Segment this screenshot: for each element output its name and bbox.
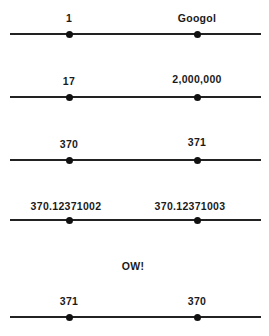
right-label: 370.12371003 <box>155 200 226 212</box>
right-label: Googol <box>178 12 217 24</box>
left-point <box>66 157 73 164</box>
ow-annotation: OW! <box>122 260 144 272</box>
line <box>10 33 261 35</box>
right-point <box>194 31 201 38</box>
right-point <box>194 314 201 321</box>
right-point <box>194 217 201 224</box>
number-line-3: 370 371 <box>0 160 269 161</box>
right-label: 370 <box>188 295 206 307</box>
left-label: 17 <box>63 75 75 87</box>
left-label: 1 <box>66 12 72 24</box>
left-label: 370.12371002 <box>31 200 102 212</box>
left-point <box>66 217 73 224</box>
left-point <box>66 31 73 38</box>
left-label: 370 <box>60 138 78 150</box>
line <box>10 159 261 161</box>
number-line-1: 1 Googol <box>0 34 269 35</box>
line <box>10 96 261 98</box>
number-line-5: 371 370 <box>0 317 269 318</box>
right-point <box>194 94 201 101</box>
number-line-2: 17 2,000,000 <box>0 97 269 98</box>
line <box>10 316 261 318</box>
left-point <box>66 94 73 101</box>
right-label: 2,000,000 <box>172 73 221 85</box>
right-label: 371 <box>188 136 206 148</box>
left-label: 371 <box>60 295 78 307</box>
number-line-4: 370.12371002 370.12371003 <box>0 220 269 221</box>
left-point <box>66 314 73 321</box>
line <box>10 219 261 221</box>
right-point <box>194 157 201 164</box>
